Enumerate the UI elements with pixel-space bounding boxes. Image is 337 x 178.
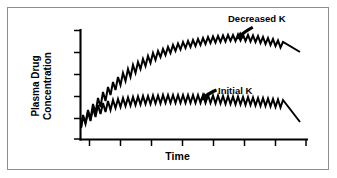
x-axis-title: Time [0, 150, 337, 162]
annotation-decreased-k: Decreased K [228, 13, 286, 24]
figure-container: Plasma Drug Concentration Time Decreased… [0, 0, 337, 178]
x-axis-title-text: Time [165, 150, 190, 162]
y-axis-title-line2: Concentration [41, 52, 52, 120]
y-axis-title-line1: Plasma Drug [30, 55, 41, 116]
curve-initial-k [81, 95, 300, 128]
annotation-initial-k: Initial K [218, 85, 252, 96]
curve-decreased-k [81, 35, 300, 129]
y-axis-title: Plasma Drug Concentration [30, 36, 52, 136]
